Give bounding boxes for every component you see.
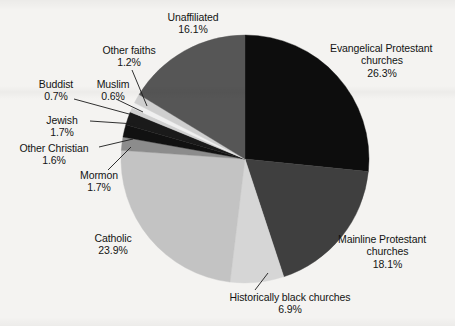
slice-label-other-christian-text: Other Christian: [2, 142, 106, 154]
slice-label-catholic: Catholic 23.9%: [68, 232, 158, 257]
slice-label-historically-black-text: Historically black churches: [204, 291, 376, 303]
slice-label-other-christian: Other Christian 1.6%: [2, 142, 106, 167]
slice-label-evangelical-line2: churches: [330, 54, 434, 66]
slice-label-muslim: Muslim 0.6%: [86, 78, 140, 103]
slice-label-mainline-protestant: Mainline Protestant churches 18.1%: [338, 233, 452, 270]
slice-label-jewish-text: Jewish: [26, 114, 98, 126]
slice-value-muslim: 0.6%: [86, 90, 140, 102]
slice-value-evangelical: 26.3%: [330, 67, 434, 79]
pie-chart-figure: Evangelical Protestant churches 26.3% Ma…: [0, 0, 455, 326]
slice-value-historically-black: 6.9%: [204, 303, 376, 315]
slice-value-other-faiths: 1.2%: [82, 56, 176, 68]
pie-slice-catholic[interactable]: [121, 150, 245, 282]
slice-label-historically-black-churches: Historically black churches 6.9%: [204, 291, 376, 316]
slice-value-other-christian: 1.6%: [2, 154, 106, 166]
slice-label-jewish: Jewish 1.7%: [26, 114, 98, 139]
slice-label-evangelical-protestant: Evangelical Protestant churches 26.3%: [330, 42, 450, 79]
slice-label-buddist: Buddist 0.7%: [28, 78, 84, 103]
slice-label-mormon-text: Mormon: [60, 169, 138, 181]
slice-label-other-faiths: Other faiths 1.2%: [82, 44, 176, 69]
slice-label-unaffiliated-text: Unaffiliated: [140, 11, 246, 23]
slice-label-catholic-text: Catholic: [68, 232, 158, 244]
slice-label-unaffiliated: Unaffiliated 16.1%: [140, 11, 246, 36]
slice-label-buddist-text: Buddist: [28, 78, 84, 90]
slice-value-mainline: 18.1%: [338, 258, 437, 270]
slice-value-catholic: 23.9%: [68, 244, 158, 256]
slice-value-buddist: 0.7%: [28, 90, 84, 102]
slice-label-other-faiths-text: Other faiths: [82, 44, 176, 56]
slice-value-unaffiliated: 16.1%: [140, 23, 246, 35]
slice-label-mainline-line2: churches: [338, 245, 437, 257]
slice-value-mormon: 1.7%: [60, 181, 138, 193]
slice-label-evangelical-line1: Evangelical Protestant: [330, 42, 450, 54]
slice-label-mainline-line1: Mainline Protestant: [338, 233, 452, 245]
slice-label-mormon: Mormon 1.7%: [60, 169, 138, 194]
slice-value-jewish: 1.7%: [26, 126, 98, 138]
slice-label-muslim-text: Muslim: [86, 78, 140, 90]
